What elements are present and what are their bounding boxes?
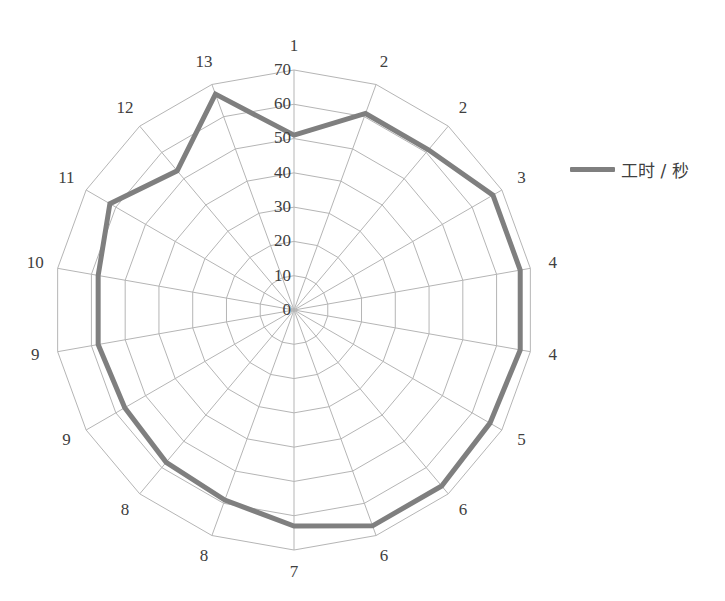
- category-label: 3: [517, 168, 526, 187]
- radar-spokes: [58, 70, 531, 550]
- category-label: 13: [196, 52, 213, 71]
- category-label: 11: [58, 168, 74, 187]
- legend: 工时 / 秒: [570, 157, 689, 182]
- category-label: 9: [62, 430, 71, 449]
- category-label: 6: [459, 500, 468, 519]
- spoke-line: [294, 310, 448, 494]
- radial-tick-label: 70: [274, 60, 291, 79]
- spoke-line: [140, 310, 294, 494]
- category-label: 4: [549, 253, 558, 272]
- category-label: 10: [27, 253, 44, 272]
- legend-label: 工时 / 秒: [621, 157, 689, 182]
- category-label: 2: [459, 98, 468, 117]
- category-label: 2: [380, 52, 389, 71]
- radial-tick-label: 10: [274, 266, 291, 285]
- radial-tick-label: 60: [274, 94, 291, 113]
- radial-tick-label: 0: [283, 300, 292, 319]
- radial-tick-label: 40: [274, 163, 291, 182]
- category-label: 5: [517, 430, 526, 449]
- radial-tick-label: 20: [274, 231, 291, 250]
- spoke-line: [294, 126, 448, 310]
- category-label: 9: [31, 345, 40, 364]
- spoke-line: [294, 84, 376, 310]
- category-label: 8: [121, 500, 130, 519]
- category-label: 8: [200, 546, 209, 565]
- category-label: 4: [549, 345, 558, 364]
- series-polygon: [98, 94, 520, 526]
- category-label: 7: [290, 562, 299, 581]
- radar-chart: 010203040506070 1223445667889910111213: [0, 0, 725, 601]
- category-label: 12: [117, 98, 134, 117]
- category-label: 6: [380, 546, 389, 565]
- category-label: 1: [290, 36, 299, 55]
- radial-tick-label: 30: [274, 197, 291, 216]
- legend-line-swatch-icon: [570, 167, 615, 172]
- spoke-line: [294, 310, 376, 536]
- radial-tick-labels: 010203040506070: [274, 60, 291, 319]
- series-line-worktime: [98, 94, 520, 526]
- spoke-line: [140, 126, 294, 310]
- radial-tick-label: 50: [274, 128, 291, 147]
